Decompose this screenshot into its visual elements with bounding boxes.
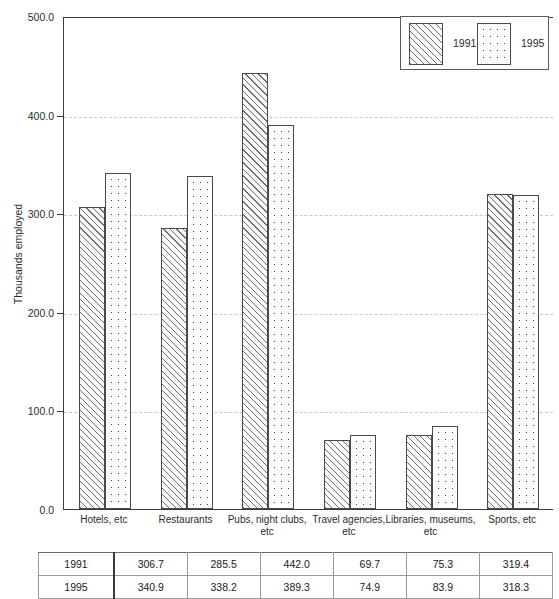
table-cell-value: 83.9	[406, 576, 479, 599]
bar-1995-6	[513, 195, 539, 509]
bar-1991-5	[406, 435, 432, 509]
legend: 19911995	[400, 16, 549, 70]
bar-1995-4	[350, 435, 376, 509]
bar-1995-2	[187, 176, 213, 509]
bar-chart-figure: 0.0100.0200.0300.0400.0500.0 Thousands e…	[0, 0, 559, 520]
legend-label-1991: 1991	[453, 37, 476, 49]
table-cell-value: 389.3	[260, 576, 333, 599]
gridline	[64, 314, 553, 315]
y-axis: 0.0100.0200.0300.0400.0500.0	[0, 0, 63, 520]
y-axis-title: Thousands employed	[12, 174, 24, 334]
table-cell-value: 75.3	[406, 553, 479, 576]
table-cell-value: 318.3	[479, 576, 552, 599]
bar-1991-3	[242, 73, 268, 509]
table-cell-value: 74.9	[333, 576, 406, 599]
table-row: 1991306.7285.5442.069.775.3319.4	[39, 553, 553, 576]
table-cell-value: 319.4	[479, 553, 552, 576]
plot-area	[63, 17, 553, 510]
table-cell-value: 338.2	[187, 576, 260, 599]
x-axis-label-line2: etc	[371, 526, 491, 538]
bar-1991-1	[79, 207, 105, 509]
table-row: 1995340.9338.2389.374.983.9318.3	[39, 576, 553, 599]
table-cell-value: 442.0	[260, 553, 333, 576]
table-cell-year: 1995	[39, 576, 115, 599]
table-cell-value: 306.7	[114, 553, 187, 576]
table-cell-year: 1991	[39, 553, 115, 576]
x-axis-labels: Hotels, etcRestaurantsPubs, night clubs,…	[63, 514, 553, 554]
legend-swatch-1995	[477, 23, 511, 65]
table-cell-value: 69.7	[333, 553, 406, 576]
y-tick-label: 100.0	[0, 405, 54, 417]
bar-1995-5	[432, 426, 458, 509]
y-tick-label: 300.0	[0, 208, 54, 220]
legend-label-1995: 1995	[521, 37, 544, 49]
x-axis-label: Sports, etc	[452, 514, 559, 526]
gridline	[64, 117, 553, 118]
bar-1991-4	[324, 440, 350, 509]
gridline	[64, 412, 553, 413]
bar-1995-1	[105, 173, 131, 509]
table-cell-value: 340.9	[114, 576, 187, 599]
data-table: 1991306.7285.5442.069.775.3319.41995340.…	[38, 552, 553, 599]
table-cell-value: 285.5	[187, 553, 260, 576]
legend-swatch-1991	[409, 23, 443, 65]
y-tick-label: 400.0	[0, 110, 54, 122]
gridline	[64, 215, 553, 216]
bar-1991-6	[487, 194, 513, 509]
y-tick-label: 200.0	[0, 307, 54, 319]
x-axis-label-line1: Sports, etc	[452, 514, 559, 526]
bar-1995-3	[268, 125, 294, 509]
y-tick-label: 500.0	[0, 11, 54, 23]
bar-1991-2	[161, 228, 187, 510]
